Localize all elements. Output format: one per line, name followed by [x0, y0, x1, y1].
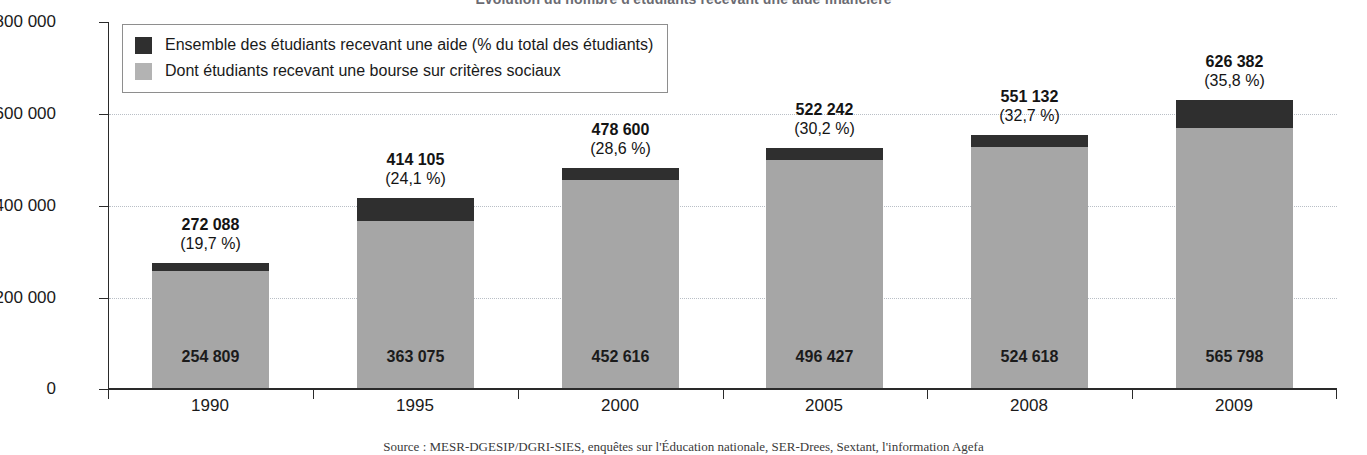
legend-swatch-grey-icon [135, 63, 152, 80]
y-tick-label-600000: 600 000 [0, 104, 56, 124]
bar-inner-label-1990: 254 809 [152, 348, 269, 366]
y-tick-600000 [99, 114, 109, 115]
x-label-1995: 1995 [315, 396, 515, 416]
bar-top-label-2009: 626 382 (35,8 %) [1156, 52, 1313, 91]
y-tick-label-0: 0 [0, 379, 56, 399]
source-note: Source : MESR-DGESIP/DGRI-SIES, enquêtes… [0, 439, 1367, 455]
legend-swatch-dark-icon [135, 37, 152, 54]
x-tick-6 [1336, 390, 1337, 399]
bar-total-2005: 522 242 [746, 100, 903, 119]
bar-percent-1995: (24,1 %) [337, 169, 494, 189]
bar-inner-label-2008: 524 618 [971, 348, 1088, 366]
bar-top-label-1990: 272 088 (19,7 %) [132, 215, 289, 254]
x-tick-5 [1132, 390, 1133, 399]
bar-segment-aide-1990 [152, 263, 269, 271]
bar-segment-aide-2008 [971, 135, 1088, 147]
x-label-2009: 2009 [1134, 396, 1334, 416]
chart-title: Évolution du nombre d'étudiants recevant… [0, 0, 1367, 7]
x-label-2005: 2005 [724, 396, 924, 416]
chart-legend: Ensemble des étudiants recevant une aide… [122, 24, 668, 93]
bar-percent-2005: (30,2 %) [746, 119, 903, 139]
bar-total-2009: 626 382 [1156, 52, 1313, 71]
y-tick-400000 [99, 206, 109, 207]
legend-item-aide[interactable]: Ensemble des étudiants recevant une aide… [135, 32, 653, 58]
bar-top-label-2000: 478 600 (28,6 %) [542, 120, 699, 159]
y-tick-200000 [99, 298, 109, 299]
y-tick-label-200000: 200 000 [0, 288, 56, 308]
legend-item-bourse[interactable]: Dont étudiants recevant une bourse sur c… [135, 58, 653, 84]
bar-segment-aide-2000 [562, 168, 679, 180]
bar-total-1995: 414 105 [337, 150, 494, 169]
x-tick-1 [313, 390, 314, 399]
y-tick-label-400000: 400 000 [0, 196, 56, 216]
bar-inner-label-1995: 363 075 [357, 348, 474, 366]
bar-group-2009[interactable]: 565 798 626 382 (35,8 %) [1176, 100, 1293, 388]
bar-segment-bourse-1990 [152, 271, 269, 388]
bar-segment-aide-2005 [766, 148, 883, 160]
x-tick-0 [108, 390, 109, 399]
bar-percent-2008: (32,7 %) [951, 106, 1108, 126]
bar-top-label-2008: 551 132 (32,7 %) [951, 87, 1108, 126]
x-tick-4 [927, 390, 928, 399]
gridline-400000 [109, 206, 1337, 207]
bar-group-2000[interactable]: 452 616 478 600 (28,6 %) [562, 168, 679, 388]
x-label-2000: 2000 [520, 396, 720, 416]
bar-percent-2000: (28,6 %) [542, 139, 699, 159]
bar-total-2008: 551 132 [951, 87, 1108, 106]
gridline-200000 [109, 298, 1337, 299]
gridline-600000 [109, 114, 1337, 115]
bar-inner-label-2005: 496 427 [766, 348, 883, 366]
bar-group-1995[interactable]: 363 075 414 105 (24,1 %) [357, 198, 474, 388]
x-label-1990: 1990 [110, 396, 310, 416]
bar-percent-2009: (35,8 %) [1156, 71, 1313, 91]
bar-top-label-2005: 522 242 (30,2 %) [746, 100, 903, 139]
y-tick-800000 [99, 22, 109, 23]
legend-label-bourse: Dont étudiants recevant une bourse sur c… [165, 62, 561, 80]
bar-group-2005[interactable]: 496 427 522 242 (30,2 %) [766, 148, 883, 388]
bar-total-2000: 478 600 [542, 120, 699, 139]
y-tick-label-800000: 800 000 [0, 12, 56, 32]
bar-group-1990[interactable]: 254 809 272 088 (19,7 %) [152, 263, 269, 388]
bar-total-1990: 272 088 [132, 215, 289, 234]
bar-inner-label-2000: 452 616 [562, 348, 679, 366]
bar-inner-label-2009: 565 798 [1176, 348, 1293, 366]
bar-percent-1990: (19,7 %) [132, 234, 289, 254]
bar-segment-aide-1995 [357, 198, 474, 221]
bar-top-label-1995: 414 105 (24,1 %) [337, 150, 494, 189]
x-label-2008: 2008 [929, 396, 1129, 416]
bar-group-2008[interactable]: 524 618 551 132 (32,7 %) [971, 135, 1088, 388]
legend-label-aide: Ensemble des étudiants recevant une aide… [165, 36, 653, 54]
x-tick-2 [518, 390, 519, 399]
bar-segment-aide-2009 [1176, 100, 1293, 128]
